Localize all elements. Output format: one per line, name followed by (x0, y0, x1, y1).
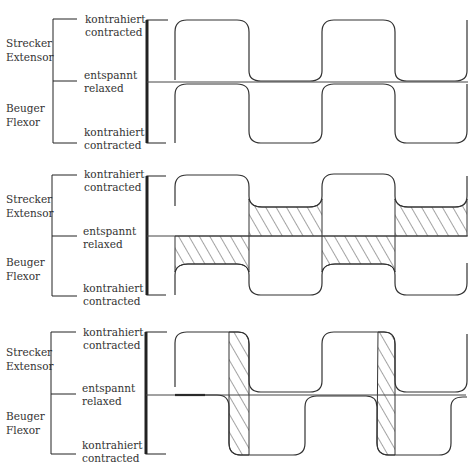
level-top-de: kontrahiert (85, 13, 146, 25)
level-middle-en: relaxed (82, 395, 122, 407)
muscle-label-flexor-de: Beuger (6, 102, 46, 114)
level-bottom-en: contracted (82, 452, 140, 464)
level-bracket (51, 332, 76, 454)
panel-1: Strecker Extensor Beuger Flexor kontrahi… (6, 13, 468, 151)
muscle-label-extensor-de: Strecker (6, 346, 53, 358)
flexor-residual-tone (175, 236, 249, 272)
muscle-label-flexor-de: Beuger (6, 410, 46, 422)
level-middle-en: relaxed (84, 82, 124, 94)
level-bottom-de: kontrahiert (82, 439, 143, 451)
overlap-strip (229, 332, 249, 455)
flexor-residual-tone (322, 236, 395, 272)
level-bottom-de: kontrahiert (83, 282, 144, 294)
muscle-label-extensor-en: Extensor (6, 51, 54, 63)
muscle-label-flexor-en: Flexor (6, 424, 41, 436)
flexor-curve (175, 263, 467, 295)
muscle-label-flexor-en: Flexor (6, 270, 41, 282)
level-bottom-de: kontrahiert (84, 126, 145, 138)
level-top-de: kontrahiert (84, 168, 145, 180)
muscle-label-extensor-en: Extensor (6, 360, 54, 372)
panel-2-labels: Strecker Extensor Beuger Flexor kontrahi… (6, 168, 145, 307)
panel-2: Strecker Extensor Beuger Flexor kontrahi… (6, 168, 468, 307)
extensor-curve (175, 174, 467, 207)
flexor-curve (175, 84, 467, 143)
level-top-en: contracted (85, 26, 143, 38)
extensor-curve (175, 20, 467, 81)
level-bracket (52, 175, 77, 296)
level-top-en: contracted (84, 181, 142, 193)
level-top-en: contracted (83, 339, 141, 351)
muscle-label-extensor-de: Strecker (6, 37, 53, 49)
extensor-curve (175, 332, 467, 392)
muscle-label-extensor-en: Extensor (6, 207, 54, 219)
level-middle-de: entspannt (82, 382, 136, 394)
muscle-activation-diagram: Strecker Extensor Beuger Flexor kontrahi… (0, 0, 475, 472)
flexor-curve (175, 395, 467, 455)
panel-1-labels: Strecker Extensor Beuger Flexor kontrahi… (6, 13, 146, 151)
axis-bracket (146, 332, 167, 454)
extensor-residual-tone (249, 199, 322, 236)
level-top-de: kontrahiert (83, 326, 144, 338)
muscle-label-flexor-de: Beuger (6, 256, 46, 268)
level-bracket (53, 19, 77, 143)
level-middle-de: entspannt (84, 69, 138, 81)
panel-3-labels: Strecker Extensor Beuger Flexor kontrahi… (6, 326, 144, 464)
level-bottom-en: contracted (83, 295, 141, 307)
extensor-residual-tone (395, 199, 467, 236)
panel-3: Strecker Extensor Beuger Flexor kontrahi… (6, 326, 467, 464)
muscle-label-extensor-de: Strecker (6, 193, 53, 205)
level-middle-de: entspannt (83, 225, 137, 237)
level-bottom-en: contracted (84, 139, 142, 151)
muscle-label-flexor-en: Flexor (6, 116, 41, 128)
level-middle-en: relaxed (83, 238, 123, 250)
overlap-strip (377, 332, 395, 455)
